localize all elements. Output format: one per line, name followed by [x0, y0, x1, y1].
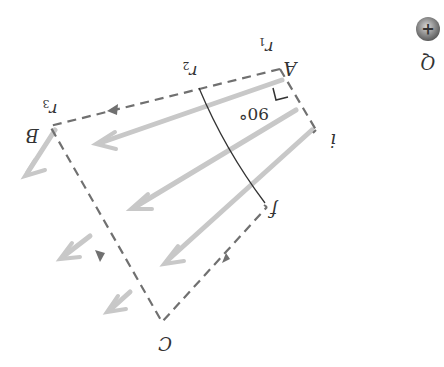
radius-r3-label: r3 — [42, 97, 57, 120]
charge-q: + — [416, 17, 440, 41]
point-c-label: C — [158, 333, 172, 354]
angle-label: 90° — [239, 104, 269, 124]
plus-sign-icon: + — [421, 20, 434, 39]
right-angle-marker — [273, 88, 288, 100]
point-i-label: i — [330, 130, 336, 151]
point-a-label: A — [284, 58, 299, 79]
path-dashed — [50, 69, 316, 322]
point-f-label: f — [267, 200, 279, 221]
point-b-label: B — [25, 125, 39, 146]
charge-label: Q — [420, 52, 435, 73]
electric-field-diagram: + Q A B C i f r1 r2 r3 90° — [0, 0, 444, 367]
radius-r1-label: r1 — [258, 35, 273, 58]
radius-r2-label: r2 — [182, 59, 197, 82]
